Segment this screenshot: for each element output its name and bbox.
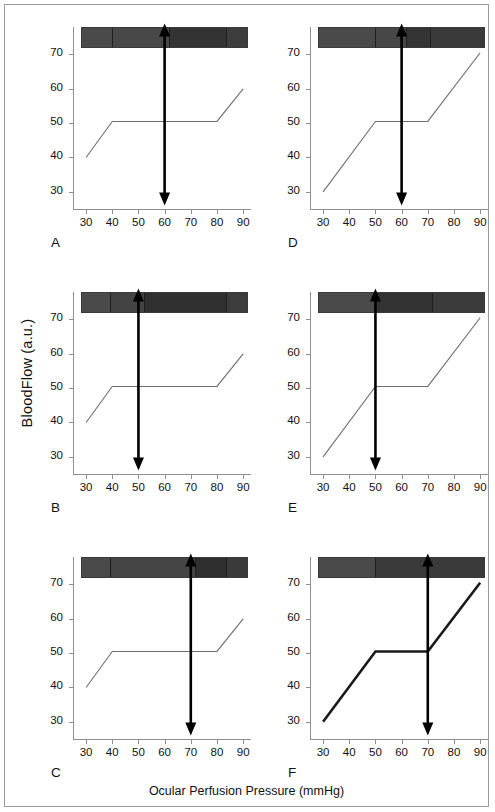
- autoregulation-curve: [86, 354, 243, 423]
- y-tick-label: 40: [37, 149, 63, 161]
- y-tick-label: 70: [37, 311, 63, 323]
- arrow-head-down: [370, 458, 381, 471]
- panel-d: 304050607030405060708090D: [310, 27, 488, 209]
- arrow-head-down: [133, 458, 144, 471]
- plot-overlay: [73, 262, 291, 484]
- plot-overlay: [73, 0, 291, 219]
- y-tick-label: 50: [274, 645, 300, 657]
- y-tick-label: 30: [37, 184, 63, 196]
- y-tick-label: 50: [37, 380, 63, 392]
- y-tick-label: 40: [274, 679, 300, 691]
- panel-letter-a: A: [51, 235, 60, 250]
- y-tick-label: 70: [274, 576, 300, 588]
- y-tick-label: 40: [274, 414, 300, 426]
- arrow-head-down: [159, 193, 170, 206]
- y-tick-label: 50: [37, 645, 63, 657]
- arrow-head-down: [422, 723, 433, 736]
- double-arrow: [396, 24, 407, 206]
- double-arrow: [185, 554, 196, 736]
- arrow-head-down: [396, 193, 407, 206]
- double-arrow: [159, 24, 170, 206]
- y-tick-label: 70: [274, 46, 300, 58]
- autoregulation-curve: [86, 619, 243, 688]
- arrow-head-up: [422, 554, 433, 567]
- arrow-head-up: [159, 24, 170, 37]
- figure-frame: BloodFlow (a.u.) Ocular Perfusion Pressu…: [4, 4, 489, 807]
- y-tick-label: 30: [37, 714, 63, 726]
- y-axis-title: BloodFlow (a.u.): [19, 263, 35, 483]
- plot-overlay: [310, 527, 495, 749]
- panel-letter-d: D: [288, 235, 298, 250]
- panel-letter-e: E: [288, 500, 297, 515]
- y-tick-label: 40: [274, 149, 300, 161]
- y-tick-label: 70: [274, 311, 300, 323]
- y-tick-label: 60: [37, 611, 63, 623]
- y-tick-label: 40: [37, 679, 63, 691]
- y-tick-label: 30: [37, 449, 63, 461]
- arrow-head-up: [133, 289, 144, 302]
- panel-f: 304050607030405060708090F: [310, 557, 488, 739]
- autoregulation-curve: [323, 583, 480, 722]
- y-tick-label: 60: [37, 81, 63, 93]
- arrow-head-up: [185, 554, 196, 567]
- y-tick-label: 30: [274, 449, 300, 461]
- x-axis-title: Ocular Perfusion Pressure (mmHg): [5, 784, 488, 798]
- plot-overlay: [310, 262, 495, 484]
- panel-a: 304050607030405060708090A: [73, 27, 251, 209]
- y-tick-label: 50: [274, 380, 300, 392]
- y-tick-label: 60: [274, 346, 300, 358]
- double-arrow: [133, 289, 144, 471]
- y-tick-label: 50: [37, 115, 63, 127]
- arrow-head-up: [370, 289, 381, 302]
- y-tick-label: 70: [37, 576, 63, 588]
- panel-b: 304050607030405060708090B: [73, 292, 251, 474]
- panel-letter-c: C: [51, 765, 61, 780]
- panel-letter-f: F: [288, 765, 296, 780]
- plot-overlay: [310, 0, 495, 219]
- y-tick-label: 30: [274, 714, 300, 726]
- y-tick-label: 70: [37, 46, 63, 58]
- y-tick-label: 40: [37, 414, 63, 426]
- panel-e: 304050607030405060708090E: [310, 292, 488, 474]
- y-tick-label: 60: [274, 611, 300, 623]
- panel-letter-b: B: [51, 500, 60, 515]
- panel-c: 304050607030405060708090C: [73, 557, 251, 739]
- y-tick-label: 30: [274, 184, 300, 196]
- y-tick-label: 60: [274, 81, 300, 93]
- arrow-head-down: [185, 723, 196, 736]
- y-tick-label: 60: [37, 346, 63, 358]
- autoregulation-curve: [323, 318, 480, 457]
- double-arrow: [370, 289, 381, 471]
- y-tick-label: 50: [274, 115, 300, 127]
- plot-overlay: [73, 527, 291, 749]
- arrow-head-up: [396, 24, 407, 37]
